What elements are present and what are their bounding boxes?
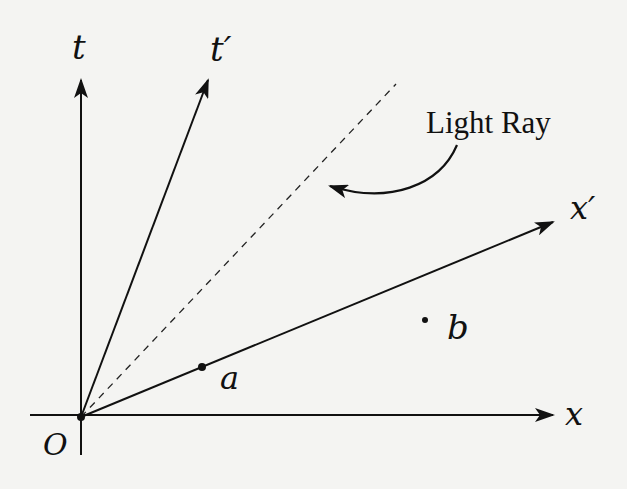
t-axis-label: t	[72, 30, 86, 64]
origin-point	[77, 413, 85, 421]
x-axis-label: x	[565, 398, 583, 430]
spacetime-diagram: t t′ Light Ray x′ b a x O	[0, 0, 627, 489]
t-prime-axis	[81, 80, 208, 417]
x-prime-axis	[81, 222, 553, 417]
t-prime-axis-label: t′	[210, 32, 231, 66]
event-a-label: a	[220, 362, 239, 394]
diagram-graphics	[0, 0, 627, 489]
light-ray-label: Light Ray	[426, 107, 551, 138]
origin-label: O	[43, 430, 68, 460]
x-prime-axis-label: x′	[570, 192, 595, 224]
light-ray-pointer-arrow	[330, 145, 457, 193]
event-a-point	[198, 363, 206, 371]
event-b-label: b	[447, 310, 469, 344]
event-b-point	[422, 317, 428, 323]
